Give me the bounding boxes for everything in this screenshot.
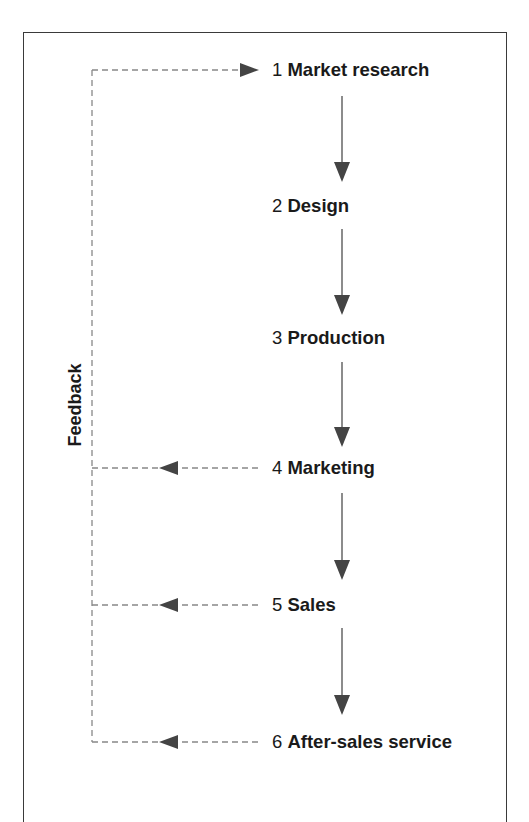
down-arrow-2-3: [334, 229, 350, 315]
step-after-sales-service: 6 After-sales service: [272, 731, 452, 753]
step-marketing: 4 Marketing: [272, 457, 375, 479]
step-design: 2 Design: [272, 195, 349, 217]
feedback-arrowhead-left-4: [159, 461, 178, 475]
feedback-loop: [92, 70, 258, 742]
down-arrow-1-2: [334, 96, 350, 182]
step-production: 3 Production: [272, 327, 385, 349]
step-sales: 5 Sales: [272, 594, 336, 616]
step-number: 4: [272, 457, 282, 478]
feedback-arrowhead-right: [240, 63, 259, 77]
step-number: 2: [272, 195, 282, 216]
step-name: Production: [287, 327, 385, 348]
down-arrow-5-6: [334, 628, 350, 715]
step-name: After-sales service: [287, 731, 452, 752]
down-arrow-3-4: [334, 362, 350, 447]
step-name: Design: [287, 195, 349, 216]
step-name: Sales: [287, 594, 335, 615]
feedback-arrowhead-left-6: [159, 735, 178, 749]
feedback-label: Feedback: [65, 363, 86, 446]
step-number: 1: [272, 59, 282, 80]
step-name: Marketing: [287, 457, 374, 478]
down-arrow-4-5: [334, 493, 350, 580]
step-market-research: 1 Market research: [272, 59, 429, 81]
feedback-arrowhead-left-5: [159, 598, 178, 612]
step-number: 3: [272, 327, 282, 348]
step-number: 6: [272, 731, 282, 752]
step-name: Market research: [287, 59, 429, 80]
step-number: 5: [272, 594, 282, 615]
